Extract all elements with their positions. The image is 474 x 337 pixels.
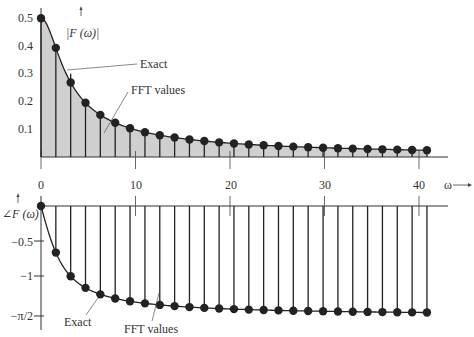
- mag-fft-point: [126, 124, 134, 132]
- mag-fft-point: [37, 14, 45, 22]
- axis-labels: 0.5 0.4 0.3 0.2 0.1 0 10 20 30 40 ω |F (…: [2, 6, 472, 336]
- mag-fft-point: [170, 133, 178, 141]
- phase-fft-point: [245, 305, 253, 313]
- exact-pointer-top: [67, 64, 137, 70]
- mag-fft-point: [334, 144, 342, 152]
- mag-fft-point: [378, 145, 386, 153]
- exact-annotation-top: Exact: [140, 57, 168, 71]
- phase-axis-label: ∠F (ω): [2, 207, 39, 221]
- phase-fft-point: [304, 307, 312, 315]
- mag-fft-point: [363, 145, 371, 153]
- mag-fft-point: [52, 44, 60, 52]
- mag-fft-point: [215, 138, 223, 146]
- mag-fft-point: [274, 142, 282, 150]
- phase-fft-point: [378, 308, 386, 316]
- mag-fft-point: [230, 139, 238, 147]
- mag-fft-point: [81, 99, 89, 107]
- phase-fft-point: [393, 308, 401, 316]
- mag-fft-point: [141, 128, 149, 136]
- phase-fft-point: [170, 302, 178, 310]
- mag-tick-0.4: 0.4: [18, 39, 33, 53]
- phase-fft-point: [52, 248, 60, 256]
- mag-tick-0.2: 0.2: [18, 94, 33, 108]
- phase-fft-point: [363, 308, 371, 316]
- exact-annotation-bottom: Exact: [64, 315, 92, 329]
- phase-plot: [34, 196, 448, 330]
- mag-fft-point: [423, 146, 431, 154]
- phase-fft-point: [126, 297, 134, 305]
- mag-fft-point: [319, 144, 327, 152]
- omega-label: ω: [444, 178, 452, 192]
- mag-fft-point: [200, 137, 208, 145]
- phase-tick-0.5: −0.5: [11, 235, 33, 249]
- phase-arrowhead-icon: [17, 193, 20, 197]
- phase-tick-1: −1: [20, 269, 33, 283]
- mag-fft-point: [289, 142, 297, 150]
- phase-fft-point: [111, 294, 119, 302]
- omega-arrowhead-icon: [468, 183, 472, 187]
- phase-fft-point: [319, 307, 327, 315]
- phase-fft-point: [349, 308, 357, 316]
- mag-fft-point: [259, 141, 267, 149]
- phase-fft-point: [259, 306, 267, 314]
- mag-arrowhead-icon: [80, 6, 83, 10]
- x-tick-40: 40: [413, 178, 425, 192]
- phase-fft-point: [81, 284, 89, 292]
- mag-fft-point: [96, 111, 104, 119]
- x-tick-20: 20: [225, 178, 237, 192]
- phase-fft-point: [200, 304, 208, 312]
- mag-fft-point: [304, 143, 312, 151]
- mag-axis-label: |F (ω)|: [66, 26, 99, 40]
- exact-pointer-bottom: [86, 298, 98, 315]
- mag-fft-point: [393, 145, 401, 153]
- mag-fft-point: [156, 131, 164, 139]
- phase-fft-point: [66, 272, 74, 280]
- mag-fft-point: [185, 135, 193, 143]
- mag-tick-0.3: 0.3: [18, 66, 33, 80]
- mag-fft-point: [408, 146, 416, 154]
- mag-fft-point: [66, 78, 74, 86]
- x-tick-30: 30: [319, 178, 331, 192]
- mag-fft-point: [111, 119, 119, 127]
- phase-fft-point: [215, 304, 223, 312]
- phase-fft-point: [423, 308, 431, 316]
- fft-annotation-top: FFT values: [131, 83, 185, 97]
- x-tick-10: 10: [130, 178, 142, 192]
- x-tick-0: 0: [38, 178, 44, 192]
- phase-fft-point: [230, 305, 238, 313]
- mag-fft-point: [245, 140, 253, 148]
- phase-fft-point: [274, 306, 282, 314]
- mag-fft-point: [349, 144, 357, 152]
- phase-fft-point: [289, 307, 297, 315]
- phase-fft-point: [141, 299, 149, 307]
- fourier-transform-figure: 0.5 0.4 0.3 0.2 0.1 0 10 20 30 40 ω |F (…: [0, 0, 474, 337]
- phase-tick-pi2: −π/2: [11, 309, 33, 323]
- mag-tick-0.5: 0.5: [18, 11, 33, 25]
- mag-tick-0.1: 0.1: [18, 122, 33, 136]
- phase-fft-point: [96, 290, 104, 298]
- phase-fft-point: [185, 303, 193, 311]
- phase-fft-point: [334, 307, 342, 315]
- phase-fft-point: [408, 308, 416, 316]
- fft-annotation-bottom: FFT values: [124, 322, 178, 336]
